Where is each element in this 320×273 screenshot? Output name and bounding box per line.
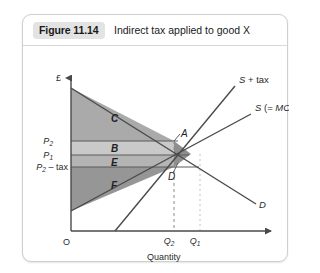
price-label-P1: P1 <box>43 150 53 161</box>
economics-tax-diagram: £ Quantity O P2 P1 P2 – tax Q2 Q1 S + ta… <box>23 46 289 262</box>
quantity-label-Q2: Q2 <box>164 236 175 247</box>
shaded-regions <box>71 88 191 211</box>
curve-label-demand: D <box>259 199 266 210</box>
region-F-shape <box>71 167 174 211</box>
curve-label-supply-mc: S (= MC) <box>255 102 289 113</box>
region-label-C: C <box>111 113 119 124</box>
figure-header: Figure 11.14 Indirect tax applied to goo… <box>23 15 287 46</box>
region-label-F: F <box>111 180 118 191</box>
curve-label-supply-plus-tax: S + tax <box>239 74 269 85</box>
point-label-A: A <box>180 128 188 139</box>
chart-plot-area: £ Quantity O P2 P1 P2 – tax Q2 Q1 S + ta… <box>23 46 287 262</box>
price-label-P2-minus-tax: P2 – tax <box>36 162 68 173</box>
region-label-D: D <box>168 171 175 182</box>
region-label-E: E <box>111 157 118 168</box>
region-C-shape <box>71 88 174 141</box>
figure-number-badge: Figure 11.14 <box>33 22 105 39</box>
quantity-label-Q1: Q1 <box>190 236 201 247</box>
origin-label: O <box>63 237 70 247</box>
region-label-B: B <box>111 143 118 154</box>
figure-card: Figure 11.14 Indirect tax applied to goo… <box>22 14 288 262</box>
figure-title: Indirect tax applied to good X <box>114 24 250 36</box>
y-axis-title: £ <box>56 73 61 83</box>
point-A-leader <box>174 134 180 141</box>
x-axis-title: Quantity <box>147 252 181 262</box>
region-E-shape <box>71 155 174 167</box>
price-label-P2: P2 <box>43 136 53 147</box>
